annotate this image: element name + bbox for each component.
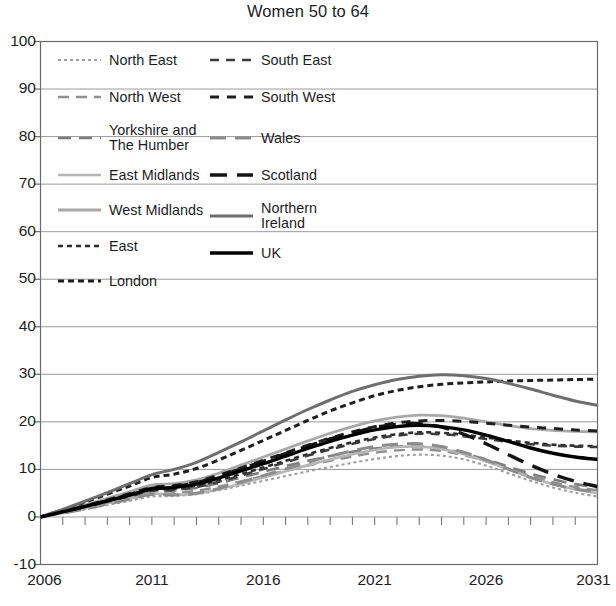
y-tick-label: 90 <box>0 79 36 97</box>
chart-container: Women 50 to 64 North EastNorth WestYorks… <box>0 0 616 606</box>
x-tick-label: 2011 <box>117 571 187 589</box>
y-tick-label: 40 <box>0 317 36 335</box>
y-tick-label: 30 <box>0 364 36 382</box>
y-tick-label: 80 <box>0 127 36 145</box>
y-tick-label: 60 <box>0 222 36 240</box>
line-chart-plot <box>0 0 616 606</box>
x-tick-label: 2006 <box>10 571 80 589</box>
y-tick-label: 10 <box>0 459 36 477</box>
x-tick-label: 2026 <box>451 571 521 589</box>
x-tick-label: 2016 <box>228 571 298 589</box>
x-tick-label: 2031 <box>559 571 616 589</box>
series-line-wales <box>41 444 598 517</box>
y-tick-label: 0 <box>0 507 36 525</box>
y-tick-label: 100 <box>0 32 36 50</box>
y-tick-label: 50 <box>0 269 36 287</box>
x-tick-label: 2021 <box>340 571 410 589</box>
y-tick-label: 20 <box>0 412 36 430</box>
y-tick-label: 70 <box>0 174 36 192</box>
